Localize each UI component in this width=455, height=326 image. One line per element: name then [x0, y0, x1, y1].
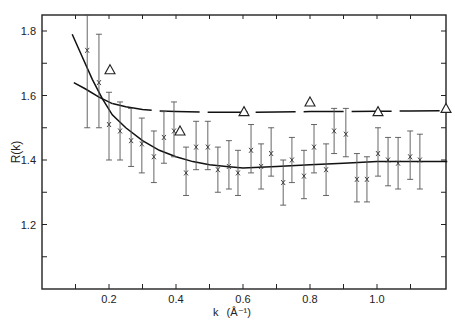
x-axis-label-unit: (Å⁻¹) — [227, 306, 251, 318]
y-axis-label: R(k) — [9, 141, 23, 164]
x-tick-label: 1.0 — [369, 293, 384, 305]
y-tick-label: 1.2 — [21, 219, 36, 231]
triangle-marker-icon — [175, 126, 185, 135]
triangle-marker-icon — [441, 103, 451, 112]
triangle-marker-icon — [105, 65, 115, 74]
triangle-marker-icon — [239, 107, 249, 116]
x-tick-label: 0.6 — [235, 293, 250, 305]
error-bars — [84, 15, 423, 205]
solid-fit-curve — [72, 34, 447, 168]
x-tick-label: 0.2 — [101, 293, 116, 305]
x-axis-label: k (Å⁻¹) — [213, 306, 251, 318]
x-tick-label: 0.8 — [302, 293, 317, 305]
triangle-marker-icon — [305, 97, 315, 106]
axis-ticks — [42, 15, 446, 289]
data-markers — [85, 48, 451, 185]
y-tick-label: 1.6 — [21, 90, 36, 102]
dashed-fit-curve — [112, 104, 447, 113]
chart: 0.20.40.60.81.01.21.41.61.8 k (Å⁻¹) R(k) — [0, 0, 455, 326]
x-axis-label-main: k — [213, 306, 219, 318]
axis-tick-labels: 0.20.40.60.81.01.21.41.61.8 — [21, 25, 385, 305]
plot-frame — [42, 15, 446, 289]
fit-curves — [72, 34, 447, 168]
x-tick-label: 0.4 — [168, 293, 183, 305]
solid-fit-curve — [74, 83, 113, 104]
y-tick-label: 1.8 — [21, 25, 36, 37]
